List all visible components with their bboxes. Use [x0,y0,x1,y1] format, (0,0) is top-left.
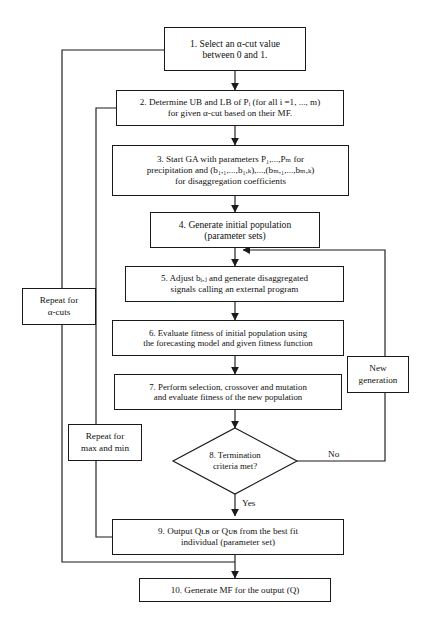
step-7-line-2: and evaluate fitness of the new populati… [154,392,303,402]
new-generation-line-2: generation [359,375,398,385]
step-5-line-1: 5. Adjust bᵢ,ⱼ and generate disaggregate… [161,273,308,283]
step-4-line-1: 4. Generate initial population [179,219,291,230]
new-generation-line-1: New [369,363,386,373]
step-6-line-1: 6. Evaluate fitness of initial populatio… [149,328,307,338]
step-8-line-2: criteria met? [213,461,257,471]
process-step-7[interactable]: 7. Perform selection, crossover and muta… [114,374,342,410]
process-step-6[interactable]: 6. Evaluate fitness of initial populatio… [112,320,344,356]
label-repeat-alpha-cuts: Repeat for α-cuts [22,288,96,325]
step-1-line-2: between 0 and 1. [202,49,267,60]
step-4-line-2: (parameter sets) [204,230,266,241]
edge-label-yes: Yes [241,498,256,508]
edge-label-no: No [327,449,340,459]
step-2-line-1: 2. Determine UB and LB of Pᵢ (for all i … [140,97,320,107]
process-step-9[interactable]: 9. Output Qʟʙ or Qᴜʙ from the best fit i… [112,519,344,555]
process-step-3[interactable]: 3. Start GA with parameters P₁,...,Pₘ fo… [112,145,349,196]
process-step-1[interactable]: 1. Select an α-cut value between 0 and 1… [164,27,306,71]
step-2-line-2: for given α-cut based on their MF. [168,108,293,118]
step-8-line-1: 8. Termination [209,450,261,460]
step-9-line-2: individual (parameter set) [181,537,275,547]
process-step-5[interactable]: 5. Adjust bᵢ,ⱼ and generate disaggregate… [125,266,344,302]
step-5-line-2: signals calling an external program [171,284,299,294]
label-repeat-max-min: Repeat for max and min [68,424,142,461]
process-step-4[interactable]: 4. Generate initial population (paramete… [150,212,320,248]
repeat-maxmin-line-2: max and min [81,443,129,453]
step-3-line-1: 3. Start GA with parameters P₁,...,Pₘ fo… [157,154,304,164]
decision-step-8[interactable]: 8. Termination criteria met? [173,428,297,494]
step-9-line-1: 9. Output Qʟʙ or Qᴜʙ from the best fit [158,526,298,536]
step-1-line-1: 1. Select an α-cut value [190,38,280,49]
step-3-line-3: for disaggregation coefficients [175,176,286,186]
process-step-2[interactable]: 2. Determine UB and LB of Pᵢ (for all i … [116,90,344,126]
process-step-10[interactable]: 10. Generate MF for the output (Q) [139,578,331,602]
repeat-maxmin-line-1: Repeat for [86,431,125,441]
label-new-generation: New generation [347,356,409,393]
repeat-alpha-line-2: α-cuts [48,307,71,317]
step-10-line-1: 10. Generate MF for the output (Q) [171,585,300,595]
step-6-line-2: the forecasting model and given fitness … [143,338,313,348]
step-7-line-1: 7. Perform selection, crossover and muta… [149,382,307,392]
step-3-line-2: precipitation and (b₁,₁,...,b₁,ₖ),...,(b… [147,165,315,175]
flowchart-canvas: 1. Select an α-cut value between 0 and 1… [0,0,429,623]
repeat-alpha-line-1: Repeat for [40,295,79,305]
